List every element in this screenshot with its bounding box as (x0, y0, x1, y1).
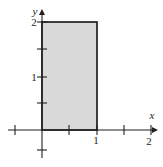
x-axis-arrow-icon (152, 127, 158, 133)
shaded-rectangle-fill (42, 22, 97, 130)
x-tick-label-1: 1 (93, 134, 99, 146)
y-tick-label-2: 2 (31, 16, 37, 28)
x-tick-label-2: 2 (146, 135, 152, 147)
coordinate-plane-figure: x y 1 2 1 2 (0, 0, 163, 167)
plot-svg: x y 1 2 1 2 (0, 0, 163, 167)
y-tick-label-1: 1 (31, 71, 37, 83)
x-axis-label: x (149, 109, 155, 121)
y-axis-arrow-icon (39, 9, 45, 15)
